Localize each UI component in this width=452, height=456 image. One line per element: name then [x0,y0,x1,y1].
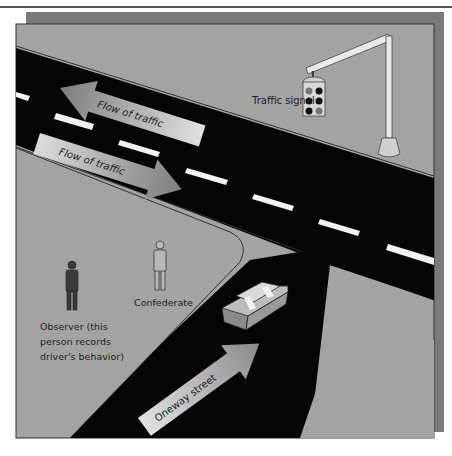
traffic-signal-label: Traffic signal [251,95,315,106]
intersection-diagram: Flow of traffic Flow of traffic Oneway s… [0,0,452,456]
confederate-label: Confederate [134,297,193,308]
observer-label-line3: driver's behavior) [40,351,124,362]
observer-label-line1: Observer (this [40,321,108,332]
observer-label-line2: person records [40,336,111,347]
